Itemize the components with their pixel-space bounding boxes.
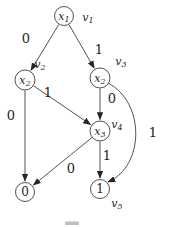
caption-fragment <box>65 222 79 226</box>
node-t1-tag: v5 <box>111 197 122 212</box>
node-v2-tag: v2 <box>34 58 45 73</box>
edge-label-v1-v3: 1 <box>95 42 103 57</box>
edge-v2-v4 <box>34 86 91 125</box>
edge-label-v4-t1: 1 <box>103 148 111 163</box>
edge-label-v2-t0: 0 <box>7 108 15 123</box>
node-t0-value: 0 <box>21 185 29 199</box>
node-t1-value: 1 <box>96 182 104 196</box>
edge-label-v1-v2: 0 <box>22 31 30 46</box>
node-v1-tag: v1 <box>82 11 93 26</box>
edge-label-v3-t1: 1 <box>149 125 157 140</box>
node-v4-tag: v4 <box>111 118 122 133</box>
edge-label-v4-t0: 0 <box>67 161 75 176</box>
edge-v4-t0 <box>34 138 92 186</box>
edge-label-v3-v4: 0 <box>108 91 116 106</box>
figure-canvas: 01010110x1v1x2v2x2v3x3v401v5 <box>0 0 170 227</box>
edge-label-v2-v4: 1 <box>44 85 52 100</box>
bdd-diagram-svg: 01010110x1v1x2v2x2v3x3v401v5 <box>0 0 170 227</box>
edge-v1-v3 <box>69 25 94 69</box>
node-v3-tag: v3 <box>115 55 126 70</box>
